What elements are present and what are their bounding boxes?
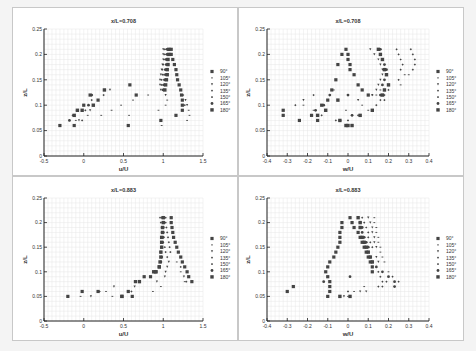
x-tick-label: 0 bbox=[82, 323, 85, 329]
y-tick-label: 0.05 bbox=[255, 293, 265, 299]
y-tick-label: 0.2 bbox=[35, 219, 42, 225]
x-tick-label: 0 bbox=[347, 323, 350, 329]
x-axis-label: w/U bbox=[342, 331, 354, 337]
y-tick-label: 0.25 bbox=[255, 26, 265, 32]
scatter-chart-u-x0883: -0.500.511.500.050.10.150.20.25x/L=0.883… bbox=[13, 177, 239, 342]
y-tick-label: 0 bbox=[39, 153, 42, 159]
chart-title: x/L=0.708 bbox=[111, 18, 136, 24]
x-tick-label: -0.1 bbox=[323, 158, 332, 164]
scatter-chart-u-x0708: -0.500.511.500.050.10.150.20.25x/L=0.708… bbox=[13, 8, 239, 177]
y-tick-label: 0.15 bbox=[255, 244, 265, 250]
y-tick-label: 0.15 bbox=[255, 77, 265, 83]
x-tick-label: 0 bbox=[82, 158, 85, 164]
legend-label: 150° bbox=[446, 261, 456, 267]
x-tick-label: 0.2 bbox=[385, 158, 392, 164]
y-tick-label: 0.2 bbox=[258, 219, 265, 225]
legend-label: 165° bbox=[446, 267, 456, 273]
x-tick-label: 0.3 bbox=[405, 323, 412, 329]
legend-label: 150° bbox=[220, 261, 230, 267]
grid bbox=[44, 29, 203, 156]
legend-label: 105° bbox=[220, 75, 230, 81]
legend-label: 120° bbox=[446, 248, 456, 254]
y-tick-label: 0.05 bbox=[255, 127, 265, 133]
x-tick-label: -0.4 bbox=[263, 323, 272, 329]
x-tick-label: 1 bbox=[162, 323, 165, 329]
legend-label: 135° bbox=[220, 88, 230, 94]
legend-label: 105° bbox=[446, 242, 456, 248]
legend-label: 105° bbox=[220, 242, 230, 248]
y-axis-label: z/L bbox=[22, 88, 28, 97]
y-tick-label: 0 bbox=[262, 318, 265, 324]
legend-label: 165° bbox=[220, 267, 230, 273]
x-tick-label: -0.5 bbox=[40, 158, 49, 164]
panel-bottom-right: -0.4-0.3-0.2-0.100.10.20.30.400.050.10.1… bbox=[238, 176, 464, 341]
legend-label: 90° bbox=[220, 235, 228, 241]
x-tick-label: -0.3 bbox=[283, 158, 292, 164]
x-tick-label: -0.1 bbox=[323, 323, 332, 329]
legend-label: 90° bbox=[446, 68, 454, 74]
y-tick-label: 0.2 bbox=[258, 51, 265, 57]
y-tick-label: 0.05 bbox=[32, 293, 42, 299]
grid bbox=[267, 198, 429, 321]
x-tick-label: 0.4 bbox=[426, 323, 433, 329]
scatter-chart-w-x0883: -0.4-0.3-0.2-0.100.10.20.30.400.050.10.1… bbox=[239, 177, 465, 342]
chart-title: x/L=0.883 bbox=[336, 187, 361, 193]
y-tick-label: 0.15 bbox=[32, 77, 42, 83]
x-axis-label: w/U bbox=[342, 166, 354, 172]
legend-label: 120° bbox=[220, 248, 230, 254]
legend-label: 165° bbox=[446, 100, 456, 106]
panel-top-left: -0.500.511.500.050.10.150.20.25x/L=0.708… bbox=[12, 7, 238, 176]
y-tick-label: 0.25 bbox=[32, 26, 42, 32]
legend-label: 105° bbox=[446, 75, 456, 81]
legend: 90°105°120°135°150°165°180° bbox=[436, 235, 456, 279]
panel-bottom-left: -0.500.511.500.050.10.150.20.25x/L=0.883… bbox=[12, 176, 238, 341]
grid bbox=[267, 29, 429, 156]
y-tick-label: 0.1 bbox=[258, 269, 265, 275]
legend: 90°105°120°135°150°165°180° bbox=[210, 68, 230, 112]
scatter-chart-w-x0708: -0.4-0.3-0.2-0.100.10.20.30.400.050.10.1… bbox=[239, 8, 465, 177]
x-tick-label: -0.2 bbox=[303, 323, 312, 329]
x-tick-label: -0.3 bbox=[283, 323, 292, 329]
grid bbox=[44, 198, 203, 321]
series-2 bbox=[90, 261, 185, 298]
x-tick-label: 0.1 bbox=[365, 158, 372, 164]
y-axis-label: z/L bbox=[22, 255, 28, 264]
y-tick-label: 0.25 bbox=[255, 195, 265, 201]
legend-label: 135° bbox=[446, 88, 456, 94]
x-tick-label: 0.5 bbox=[120, 323, 127, 329]
legend-label: 135° bbox=[446, 255, 456, 261]
legend: 90°105°120°135°150°165°180° bbox=[436, 68, 456, 112]
x-tick-label: -0.2 bbox=[303, 158, 312, 164]
series-6 bbox=[73, 48, 171, 117]
x-tick-label: -0.4 bbox=[263, 158, 272, 164]
legend-label: 135° bbox=[220, 255, 230, 261]
y-tick-label: 0.1 bbox=[35, 102, 42, 108]
y-tick-label: 0 bbox=[39, 318, 42, 324]
x-tick-label: 1.5 bbox=[200, 323, 207, 329]
panel-top-right: -0.4-0.3-0.2-0.100.10.20.30.400.050.10.1… bbox=[238, 7, 464, 176]
legend: 90°105°120°135°150°165°180° bbox=[210, 235, 230, 279]
y-tick-label: 0.25 bbox=[32, 195, 42, 201]
chart-title: x/L=0.708 bbox=[336, 18, 361, 24]
legend-label: 90° bbox=[446, 235, 454, 241]
legend-label: 180° bbox=[220, 107, 230, 113]
x-tick-label: 1.5 bbox=[200, 158, 207, 164]
y-axis-label: z/L bbox=[245, 255, 251, 264]
x-tick-label: 0 bbox=[347, 158, 350, 164]
x-tick-label: 0.5 bbox=[120, 158, 127, 164]
x-tick-label: 0.4 bbox=[426, 158, 433, 164]
legend-label: 150° bbox=[446, 94, 456, 100]
chart-title: x/L=0.883 bbox=[111, 187, 136, 193]
legend-label: 150° bbox=[220, 94, 230, 100]
x-tick-label: 0.2 bbox=[385, 323, 392, 329]
y-tick-label: 0.05 bbox=[32, 127, 42, 133]
x-axis-label: u/U bbox=[119, 166, 129, 172]
legend-label: 90° bbox=[220, 68, 228, 74]
y-axis-label: z/L bbox=[245, 88, 251, 97]
legend-label: 180° bbox=[446, 274, 456, 280]
y-tick-label: 0.2 bbox=[35, 51, 42, 57]
x-tick-label: 1 bbox=[162, 158, 165, 164]
legend-label: 180° bbox=[446, 107, 456, 113]
x-tick-label: -0.5 bbox=[40, 323, 49, 329]
legend-label: 180° bbox=[220, 274, 230, 280]
